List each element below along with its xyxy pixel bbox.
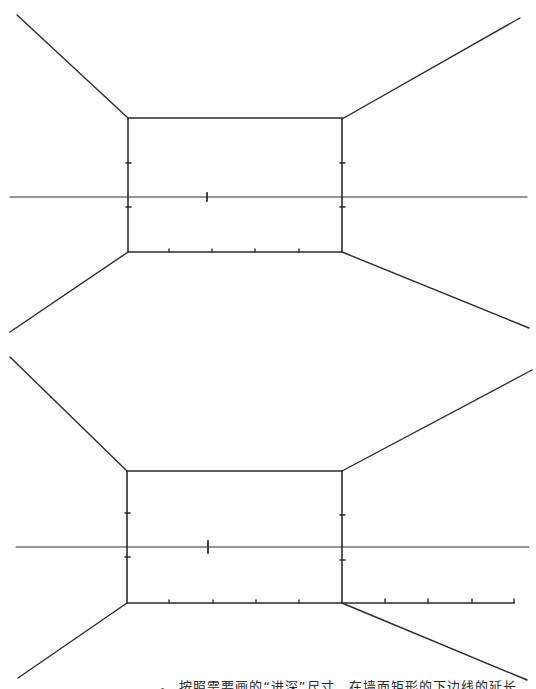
receding-edge-line <box>18 603 127 678</box>
figure-caption: 。 按照需要画的“进深”尺寸，在墙面矩形的下边线的延长 <box>160 679 536 689</box>
receding-edge-line <box>342 252 529 328</box>
caption-text: 。 按照需要画的“进深”尺寸，在墙面矩形的下边线的延长 <box>160 679 536 689</box>
perspective-diagram <box>0 0 536 689</box>
receding-edge-line <box>10 357 127 471</box>
upper-perspective-room <box>10 15 529 332</box>
receding-edge-line <box>342 370 532 471</box>
receding-edge-line <box>10 252 128 332</box>
receding-edge-line <box>342 18 520 119</box>
lower-perspective-room <box>10 357 532 680</box>
receding-edge-line <box>17 15 128 118</box>
receding-edge-line <box>342 603 527 680</box>
